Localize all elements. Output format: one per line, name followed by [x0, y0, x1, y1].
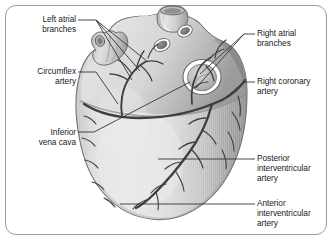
label-anterior-interventricular-artery: Anterior interventricular artery [257, 198, 331, 229]
label-left-atrial-branches: Left atrial branches [14, 14, 76, 34]
label-right-atrial-branches: Right atrial branches [257, 28, 331, 48]
label-posterior-interventricular-artery: Posterior interventricular artery [257, 153, 331, 184]
label-circumflex-artery: Circumflex artery [10, 66, 76, 86]
anatomical-figure: Left atrial branches Circumflex artery I… [0, 0, 334, 242]
label-right-coronary-artery: Right coronary artery [257, 76, 333, 96]
label-inferior-vena-cava: Inferior vena cava [12, 127, 76, 147]
